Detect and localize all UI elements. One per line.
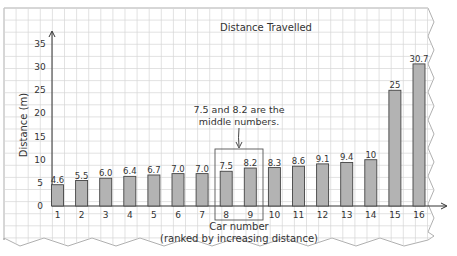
y-tick-label: 35 <box>34 39 45 49</box>
y-tick-label: 25 <box>34 85 45 95</box>
bar <box>196 174 208 206</box>
x-tick-label: 9 <box>247 210 253 220</box>
bar-value-label: 7.0 <box>195 164 209 174</box>
bar <box>317 164 329 206</box>
bar-chart: Distance Travelled 05101520253035 4.615.… <box>0 0 457 256</box>
x-tick-label: 1 <box>55 210 61 220</box>
bar-value-label: 8.6 <box>292 156 306 166</box>
bar-value-label: 30.7 <box>410 54 429 64</box>
bar-value-label: 6.4 <box>123 166 137 176</box>
bar <box>268 168 280 206</box>
annotation-line-2: middle numbers. <box>199 116 280 127</box>
bar-value-label: 6.0 <box>99 168 113 178</box>
bar <box>172 174 184 206</box>
bar-group: 9.413 <box>340 152 354 220</box>
bar-value-label: 9.1 <box>316 154 330 164</box>
bar-value-label: 8.2 <box>244 158 258 168</box>
x-tick-label: 5 <box>151 210 157 220</box>
x-axis-subtitle: (ranked by increasing distance) <box>160 233 318 244</box>
y-tick-label: 10 <box>34 155 46 165</box>
x-tick-label: 15 <box>389 210 400 220</box>
bar <box>52 185 64 206</box>
y-axis-title: Distance (m) <box>18 93 29 158</box>
bar-group: 8.310 <box>268 158 282 220</box>
bar-group: 1014 <box>365 150 377 220</box>
bar-group: 9.112 <box>316 154 330 220</box>
bar <box>100 178 112 206</box>
y-tick-label: 0 <box>37 201 43 211</box>
x-tick-label: 12 <box>317 210 328 220</box>
bar-value-label: 10 <box>365 150 376 160</box>
x-tick-label: 4 <box>127 210 133 220</box>
x-tick-label: 2 <box>79 210 85 220</box>
x-tick-label: 6 <box>175 210 181 220</box>
bar <box>244 168 256 206</box>
x-tick-label: 13 <box>341 210 352 220</box>
bar <box>148 175 160 206</box>
x-tick-label: 10 <box>269 210 281 220</box>
bar <box>413 64 425 206</box>
bar-value-label: 7.5 <box>219 161 233 171</box>
x-axis-title: Car number <box>209 221 269 232</box>
bar-value-label: 5.5 <box>75 171 89 181</box>
x-tick-label: 8 <box>223 210 229 220</box>
bar <box>124 176 136 206</box>
bar <box>76 181 88 206</box>
chart-title: Distance Travelled <box>220 22 312 33</box>
bar-value-label: 4.6 <box>51 175 65 185</box>
x-tick-label: 16 <box>413 210 425 220</box>
bar-value-label: 8.3 <box>268 158 282 168</box>
y-tick-label: 5 <box>37 178 43 188</box>
bar <box>365 160 377 206</box>
bar <box>341 162 353 206</box>
bar <box>293 166 305 206</box>
bar-group: 8.611 <box>292 156 306 220</box>
x-tick-label: 3 <box>103 210 109 220</box>
bar-value-label: 25 <box>389 80 400 90</box>
annotation-arrow-icon <box>239 128 240 146</box>
y-tick-label: 15 <box>34 132 45 142</box>
x-tick-label: 14 <box>365 210 377 220</box>
bar <box>220 171 232 206</box>
y-tick-label: 20 <box>34 108 46 118</box>
bar-value-label: 6.7 <box>147 165 161 175</box>
annotation-line-1: 7.5 and 8.2 are the <box>193 104 284 115</box>
bar-value-label: 9.4 <box>340 152 354 162</box>
x-tick-label: 11 <box>293 210 304 220</box>
x-tick-label: 7 <box>199 210 205 220</box>
chart-canvas: Distance Travelled 05101520253035 4.615.… <box>0 0 457 256</box>
bar-value-label: 7.0 <box>171 164 185 174</box>
y-tick-label: 30 <box>34 62 46 72</box>
bar-group: 2515 <box>389 80 401 220</box>
bar <box>389 90 401 206</box>
